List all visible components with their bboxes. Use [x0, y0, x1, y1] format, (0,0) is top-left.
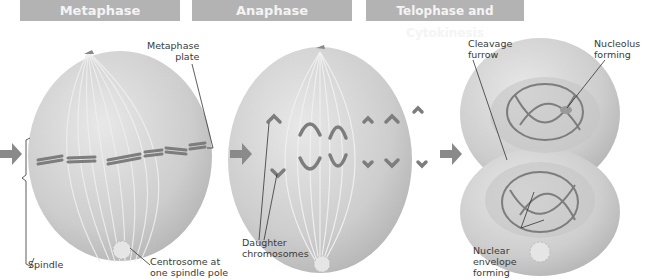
mitosis-diagram — [0, 0, 649, 279]
label-cleavage-furrow: Cleavage furrow — [468, 38, 512, 60]
label-metaphase-plate: Metaphase plate — [147, 40, 199, 62]
arrow-icon — [440, 143, 462, 165]
arrow-icon — [0, 143, 22, 165]
label-nucleolus-forming: Nucleolus forming — [594, 38, 640, 60]
centrosome-bottom — [113, 241, 131, 259]
telophase-cells — [460, 38, 620, 276]
centrosome-top — [84, 50, 94, 54]
label-spindle: Spindle — [28, 259, 63, 270]
label-daughter-chromosomes: Daughter chromosomes — [242, 237, 309, 259]
metaphase-cell — [28, 50, 212, 262]
label-nuclear-envelope-forming: Nuclear envelope forming — [473, 245, 517, 278]
label-centrosome: Centrosome at one spindle pole — [150, 256, 228, 278]
